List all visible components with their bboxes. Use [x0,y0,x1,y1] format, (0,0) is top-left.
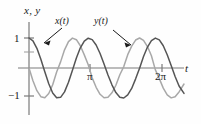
tick-label-x-two-pi: 2π [155,70,166,82]
tick-label-y-one: 1 [14,32,20,44]
tick-label-y-minus-one: −1 [8,89,20,101]
arrow-head-y-icon [125,43,132,48]
arrow-line-y [113,30,131,45]
horizontal-axis-label: t [185,62,188,74]
figure-container: x, y t 1 −1 π 2π x(t) y(t) [0,0,201,124]
curve-label-x-of-t: x(t) [55,15,69,26]
curve-label-y-of-t: y(t) [94,15,108,26]
arrow-head-x-icon [44,41,51,46]
arrow-line-x [44,28,62,43]
annotation-arrows [44,28,131,48]
axes-group [18,22,184,115]
vertical-axis-label: x, y [24,4,40,16]
tick-label-x-pi: π [87,70,93,82]
